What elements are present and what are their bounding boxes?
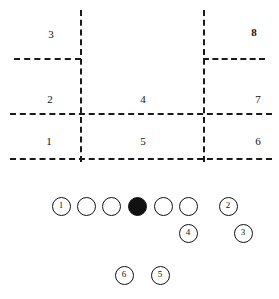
player-marker-label: 4 xyxy=(186,228,191,238)
diagram-canvas: 38247156 124365 xyxy=(0,0,279,299)
left-vertical-divider xyxy=(80,10,82,162)
zone-label-8: 8 xyxy=(244,27,264,38)
zone-label-7: 7 xyxy=(248,94,268,105)
zone-label-1: 1 xyxy=(39,136,59,147)
player-unlabeled-left-1[interactable] xyxy=(102,197,121,216)
player-unlabeled-left-2[interactable] xyxy=(77,197,96,216)
player-unlabeled-right-1[interactable] xyxy=(154,197,173,216)
player-center-ball[interactable] xyxy=(128,197,147,216)
player-2[interactable]: 2 xyxy=(219,197,238,216)
player-6[interactable]: 6 xyxy=(115,266,134,285)
player-marker-label: 2 xyxy=(226,201,231,211)
player-marker-label: 6 xyxy=(122,270,127,280)
player-marker-label: 5 xyxy=(158,270,163,280)
player-4[interactable]: 4 xyxy=(179,224,198,243)
player-marker-label: 3 xyxy=(241,228,246,238)
zone-label-6: 6 xyxy=(248,136,268,147)
zone-label-4: 4 xyxy=(133,94,153,105)
zone-label-3: 3 xyxy=(41,29,61,40)
player-1[interactable]: 1 xyxy=(52,197,71,216)
upper-left-horizontal-divider xyxy=(14,58,81,60)
player-unlabeled-right-2[interactable] xyxy=(179,197,198,216)
player-marker-label: 1 xyxy=(59,201,64,211)
bottom-horizontal-divider xyxy=(10,158,272,160)
zone-label-5: 5 xyxy=(133,136,153,147)
player-5[interactable]: 5 xyxy=(151,266,170,285)
zone-label-2: 2 xyxy=(40,94,60,105)
player-3[interactable]: 3 xyxy=(234,224,253,243)
middle-horizontal-divider xyxy=(10,113,272,115)
right-vertical-divider xyxy=(203,10,205,162)
upper-right-horizontal-divider xyxy=(203,58,265,60)
